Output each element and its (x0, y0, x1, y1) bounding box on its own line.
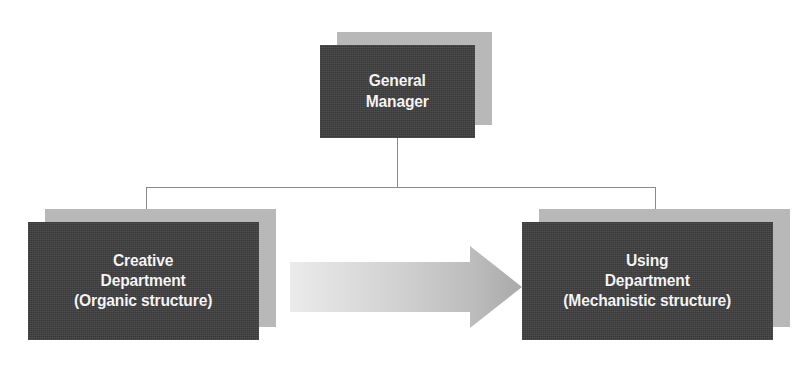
node-face: Using Department (Mechanistic structure) (522, 222, 773, 340)
flow-arrow-creative-to-using (290, 246, 522, 328)
node-face: Creative Department (Organic structure) (28, 222, 259, 340)
node-label-creative-department: Creative Department (Organic structure) (71, 251, 217, 311)
connector-horizontal-bus (146, 187, 656, 188)
node-label-using-department: Using Department (Mechanistic structure) (560, 251, 735, 311)
node-using-department[interactable]: Using Department (Mechanistic structure) (522, 209, 790, 340)
node-label-line1: General (366, 71, 429, 91)
connector-trunk (397, 138, 398, 187)
node-label-line2: Department (564, 271, 732, 291)
node-general-manager[interactable]: General Manager (320, 32, 492, 138)
node-label-line2: Manager (366, 92, 429, 112)
node-label-line1: Using (564, 251, 732, 271)
node-label-line3: (Mechanistic structure) (564, 291, 732, 311)
org-chart-diagram: General Manager Creative Department (Org… (0, 0, 812, 368)
node-creative-department[interactable]: Creative Department (Organic structure) (28, 209, 276, 340)
node-label-general-manager: General Manager (362, 71, 432, 111)
node-label-line3: (Organic structure) (74, 291, 212, 311)
node-label-line2: Department (74, 271, 212, 291)
node-face: General Manager (320, 45, 475, 138)
node-label-line1: Creative (74, 251, 212, 271)
